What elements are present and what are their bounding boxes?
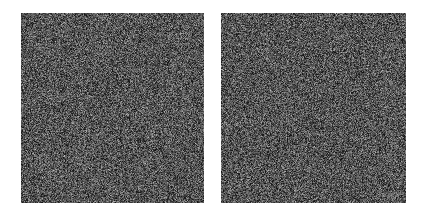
right-noise-canvas — [221, 13, 406, 203]
left-noise-canvas — [21, 13, 204, 203]
figure-root — [0, 0, 426, 217]
left-noise-panel — [21, 13, 204, 203]
right-noise-panel — [221, 13, 406, 203]
panel-gap-spacer — [204, 13, 221, 203]
